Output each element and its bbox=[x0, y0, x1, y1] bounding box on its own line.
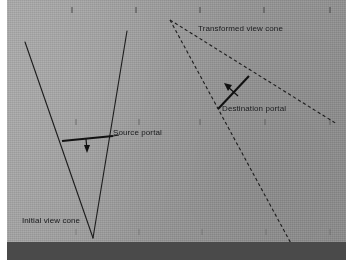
source-portal-segment bbox=[62, 136, 113, 141]
figure-container: Initial view cone Source portal Transfor… bbox=[0, 0, 346, 272]
label-source-portal: Source portal bbox=[113, 128, 162, 137]
scan-bottom-shadow-bar bbox=[7, 242, 346, 260]
scanned-plate: Initial view cone Source portal Transfor… bbox=[7, 0, 346, 260]
source-portal-marker bbox=[62, 136, 113, 153]
transformed-view-cone bbox=[170, 20, 337, 249]
tick-marks-group bbox=[72, 7, 330, 235]
transformed-cone-lower-ray bbox=[170, 20, 294, 249]
label-transformed-view-cone: Transformed view cone bbox=[198, 24, 283, 33]
label-initial-view-cone: Initial view cone bbox=[22, 216, 80, 225]
initial-view-cone bbox=[25, 31, 127, 238]
source-portal-normal-arrow-head bbox=[84, 145, 90, 153]
label-destination-portal: Destination portal bbox=[222, 104, 286, 113]
